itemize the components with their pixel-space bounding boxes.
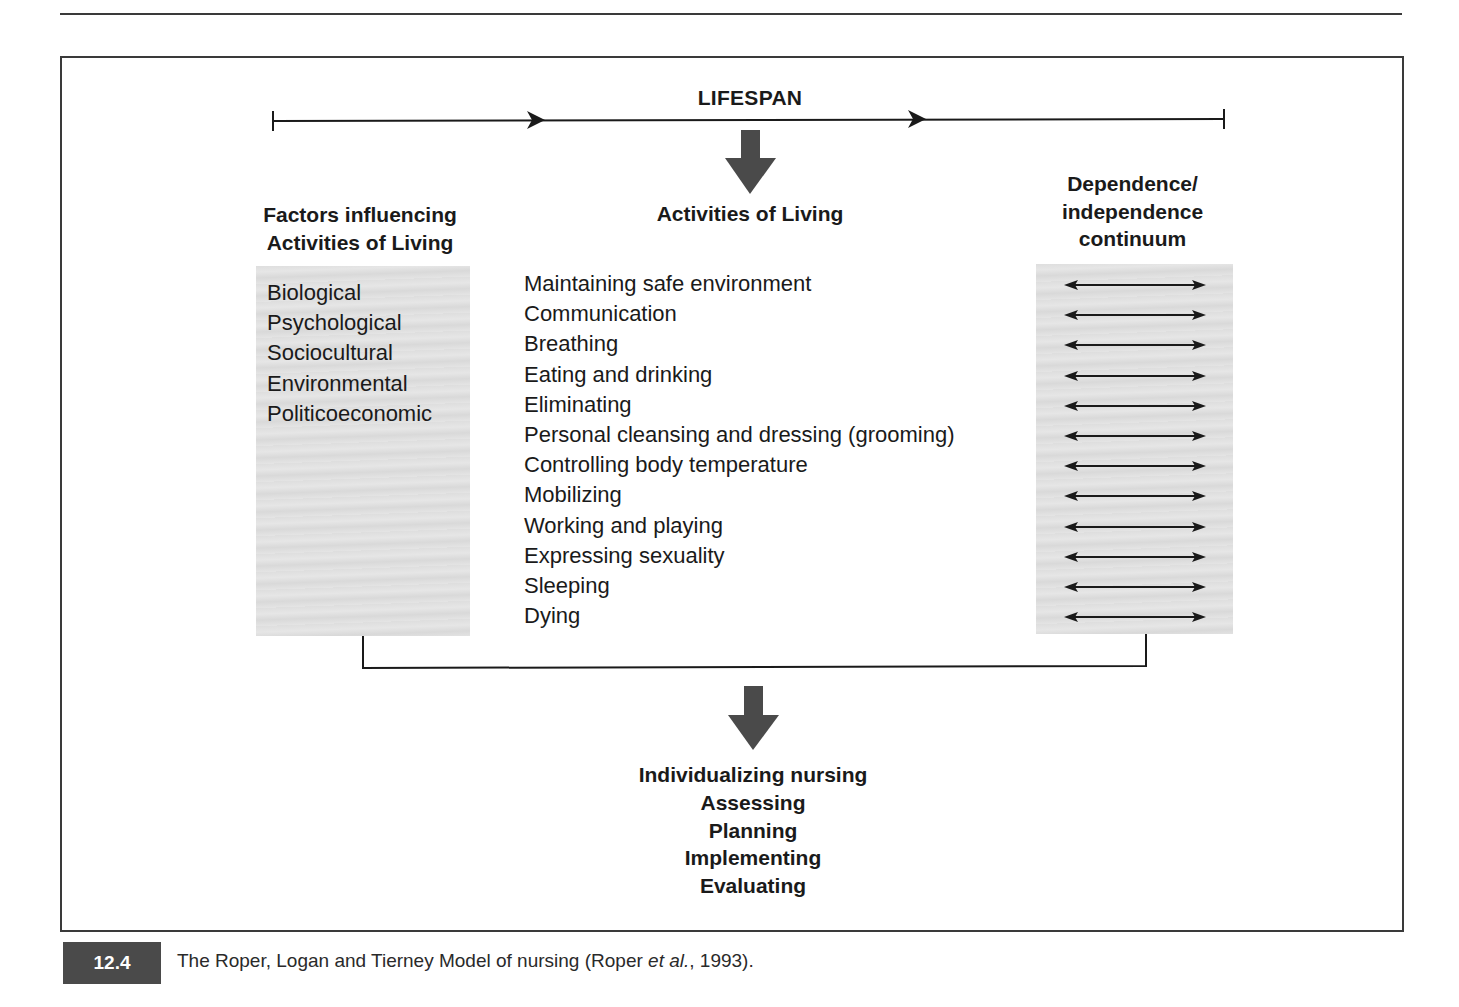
double-headed-arrow-icon: [1064, 460, 1206, 472]
double-headed-arrow-icon: [1064, 430, 1206, 442]
double-headed-arrow-icon: [1064, 400, 1206, 412]
down-arrow-top-icon: [725, 130, 776, 194]
outcome-item: Assessing: [603, 789, 903, 817]
double-headed-arrow-icon: [1064, 490, 1206, 502]
outcome-item: Evaluating: [603, 872, 903, 900]
activity-item: Breathing: [524, 329, 954, 359]
activity-item: Controlling body temperature: [524, 450, 954, 480]
outcome-list: Individualizing nursing Assessing Planni…: [603, 761, 903, 900]
activity-item: Eating and drinking: [524, 360, 954, 390]
activity-item: Personal cleansing and dressing (groomin…: [524, 420, 954, 450]
activity-item: Working and playing: [524, 511, 954, 541]
continuum-heading-line1: Dependence/: [1020, 170, 1245, 198]
caption-text-start: The Roper, Logan and Tierney Model of nu…: [177, 950, 648, 971]
factors-list: Biological Psychological Sociocultural E…: [267, 278, 432, 429]
double-headed-arrow-icon: [1064, 611, 1206, 623]
double-headed-arrow-icon: [1064, 309, 1206, 321]
outcome-item: Individualizing nursing: [603, 761, 903, 789]
double-headed-arrow-icon: [1064, 339, 1206, 351]
double-headed-arrow-icon: [1064, 370, 1206, 382]
factors-heading: Factors influencing Activities of Living: [240, 201, 480, 257]
continuum-box: [1036, 264, 1233, 634]
continuum-heading: Dependence/ independence continuum: [1020, 170, 1245, 253]
activity-item: Eliminating: [524, 390, 954, 420]
figure-caption: The Roper, Logan and Tierney Model of nu…: [177, 950, 754, 972]
factor-item: Environmental: [267, 369, 432, 399]
double-headed-arrow-icon: [1064, 521, 1206, 533]
activity-item: Sleeping: [524, 571, 954, 601]
factor-item: Psychological: [267, 308, 432, 338]
caption-text-end: , 1993).: [689, 950, 753, 971]
factor-item: Politicoeconomic: [267, 399, 432, 429]
factors-heading-line2: Activities of Living: [240, 229, 480, 257]
figure-number-badge: 12.4: [63, 942, 161, 984]
continuum-heading-line2: independence: [1020, 198, 1245, 226]
factors-heading-line1: Factors influencing: [240, 201, 480, 229]
factor-item: Biological: [267, 278, 432, 308]
double-headed-arrow-icon: [1064, 551, 1206, 563]
activity-item: Maintaining safe environment: [524, 269, 954, 299]
double-headed-arrow-icon: [1064, 581, 1206, 593]
factor-item: Sociocultural: [267, 338, 432, 368]
continuum-heading-line3: continuum: [1020, 225, 1245, 253]
activity-item: Mobilizing: [524, 480, 954, 510]
activity-item: Dying: [524, 601, 954, 631]
double-headed-arrow-icon: [1064, 279, 1206, 291]
activity-item: Expressing sexuality: [524, 541, 954, 571]
lifespan-label: LIFESPAN: [640, 86, 860, 110]
activities-heading: Activities of Living: [600, 200, 900, 228]
outcome-item: Planning: [603, 817, 903, 845]
caption-text-italic: et al.: [648, 950, 689, 971]
factors-box: Biological Psychological Sociocultural E…: [256, 266, 470, 636]
activity-item: Communication: [524, 299, 954, 329]
outcome-item: Implementing: [603, 844, 903, 872]
activities-list: Maintaining safe environment Communicati…: [524, 269, 954, 631]
down-arrow-bottom-icon: [728, 686, 779, 750]
